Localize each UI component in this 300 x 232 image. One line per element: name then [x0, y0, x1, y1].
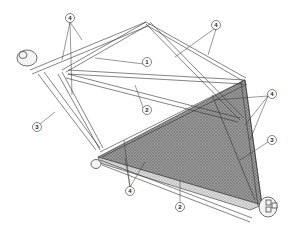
callout-4: 4: [66, 14, 75, 23]
callout-4: 4: [212, 21, 221, 30]
tube-top-right: [146, 22, 246, 81]
callout-3: 3: [33, 123, 42, 132]
lower-hub: [91, 160, 101, 169]
callout-1: 1: [143, 58, 152, 67]
tube-center-1: [68, 70, 245, 84]
callout-2: 2: [143, 106, 152, 115]
rear-hub-lug: [272, 203, 277, 208]
truss-diagram: 4 4 1 2 4 3 3 4: [0, 0, 300, 232]
rear-hub-lug: [266, 207, 271, 212]
callout-4: 4: [126, 187, 135, 196]
tube-front-leg-2: [58, 72, 103, 150]
front-hub-cap: [19, 52, 27, 59]
callout-3: 3: [268, 136, 277, 145]
tube-top-longeron: [30, 22, 148, 74]
tube-front-leg: [38, 72, 100, 150]
callout-2: 2: [176, 203, 185, 212]
callout-4: 4: [268, 90, 277, 99]
rear-hub-lug: [266, 200, 271, 205]
